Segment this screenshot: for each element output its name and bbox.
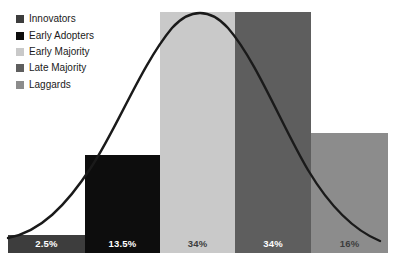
legend-item-late-majority: Late Majority — [16, 60, 94, 76]
bar-laggards: 16% — [311, 133, 388, 253]
bar-late-majority: 34% — [235, 12, 311, 253]
legend-label-early-adopters: Early Adopters — [29, 31, 94, 41]
legend-swatch-icon-early-adopters — [16, 32, 24, 40]
bar-value-label-innovators: 2.5% — [8, 239, 85, 254]
legend-label-early-majority: Early Majority — [29, 47, 90, 57]
legend-item-laggards: Laggards — [16, 77, 94, 93]
bar-value-label-late-majority: 34% — [235, 239, 311, 254]
legend-item-innovators: Innovators — [16, 11, 94, 27]
legend-label-late-majority: Late Majority — [29, 63, 86, 73]
bar-value-label-early-adopters: 13.5% — [85, 239, 160, 254]
legend: Innovators Early Adopters Early Majority… — [16, 11, 94, 93]
legend-swatch-icon-late-majority — [16, 64, 24, 72]
bar-value-label-early-majority: 34% — [160, 239, 235, 254]
bar-value-label-laggards: 16% — [311, 239, 388, 254]
legend-swatch-icon-early-majority — [16, 48, 24, 56]
legend-swatch-icon-laggards — [16, 81, 24, 89]
legend-item-early-adopters: Early Adopters — [16, 27, 94, 43]
legend-item-early-majority: Early Majority — [16, 44, 94, 60]
legend-label-innovators: Innovators — [29, 14, 76, 24]
bar-early-majority: 34% — [160, 12, 235, 253]
bar-innovators: 2.5% — [8, 235, 85, 253]
legend-label-laggards: Laggards — [29, 80, 71, 90]
diffusion-of-innovation-chart: 2.5% 13.5% 34% 34% 16% Innovators Early … — [0, 0, 396, 259]
bar-early-adopters: 13.5% — [85, 155, 160, 253]
legend-swatch-icon-innovators — [16, 15, 24, 23]
